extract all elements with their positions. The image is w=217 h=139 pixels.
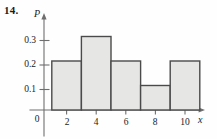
origin-label: 0	[30, 114, 44, 124]
figure-container: 14. P x 0.3 0.2 0.1 0	[0, 0, 217, 139]
histogram-bar	[170, 61, 200, 110]
y-axis-title: P	[34, 9, 40, 19]
y-tick-label-0.3: 0.3	[8, 35, 36, 45]
x-axis-title: x	[198, 115, 202, 125]
x-tick-label-10: 10	[176, 117, 194, 127]
x-tick-label-2: 2	[59, 117, 75, 127]
y-tick-label-0.2: 0.2	[8, 59, 36, 69]
histogram-bar	[52, 61, 82, 110]
x-tick-label-4: 4	[88, 117, 104, 127]
histogram-bars-group	[52, 37, 200, 111]
y-axis-arrow-icon	[41, 13, 46, 20]
x-tick-label-6: 6	[118, 117, 134, 127]
histogram-bar	[141, 86, 171, 111]
histogram-bar	[111, 61, 141, 110]
x-tick-label-8: 8	[147, 117, 163, 127]
y-tick-label-0.1: 0.1	[8, 84, 36, 94]
histogram-bar	[81, 37, 111, 111]
